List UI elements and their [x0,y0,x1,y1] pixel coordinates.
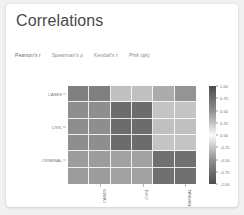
colorbar-gradient [209,86,216,184]
heatmap-cell [153,119,174,135]
heatmap-cell [175,102,196,118]
colorbar-tick [216,184,218,185]
colorbar-tick [216,147,218,148]
heatmap-cell [111,151,132,167]
heatmap-cell [68,102,89,118]
heatmap-cell [153,102,174,118]
heatmap-cell [175,135,196,151]
heatmap-cell [175,119,196,135]
tab-spearman-s[interactable]: Spearman's ρ [52,52,83,59]
heatmap-cell [153,151,174,167]
heatmap-cell [111,86,132,102]
colorbar-tick-label: -0.75 [220,169,230,174]
heatmap-cell [68,168,89,184]
colorbar-tick [216,171,218,172]
heatmap-cell [153,168,174,184]
colorbar-tick-label: 0.75 [220,96,228,101]
y-axis-tick [63,126,66,127]
heatmap-cell [68,86,89,102]
correlations-card: Correlations Pearson's rSpearman's ρKend… [6,4,238,207]
colorbar-tick-label: -0.50 [220,157,230,162]
heatmap-grid [68,86,196,184]
heatmap-cell [89,119,110,135]
heatmap-cell [89,86,110,102]
colorbar-tick [216,110,218,111]
x-axis-tick [143,184,144,187]
heatmap-cell [175,151,196,167]
y-axis-tick [63,159,66,160]
tab-kendall-s[interactable]: Kendall's τ [94,52,118,59]
x-axis-label: CIVIL [144,189,149,200]
heatmap-cell [132,86,153,102]
colorbar-tick [216,98,218,99]
colorbar-tick-label: -1.00 [220,182,230,187]
heatmap-cell [89,135,110,151]
heatmap-cell [132,119,153,135]
heatmap-cell [153,135,174,151]
colorbar-tick-label: 1.00 [220,84,228,89]
y-axis-label: CIVIL [51,124,62,129]
x-axis-label: CASES [102,189,107,203]
heatmap-cell [132,135,153,151]
y-axis-label: CASES [48,92,62,97]
heatmap-plot: CASESCIVILCRIMINAL CASESCIVILCRIMINAL 1.… [6,72,238,207]
heatmap-cell [89,102,110,118]
page-root: Correlations Pearson's rSpearman's ρKend… [0,0,244,215]
colorbar-tick [216,135,218,136]
heatmap-cell [68,119,89,135]
x-axis-tick [100,184,101,187]
heatmap-cell [68,135,89,151]
y-axis-label: CRIMINAL [42,157,62,162]
heatmap-cell [68,151,89,167]
heatmap-cell [175,168,196,184]
x-axis-label: CRIMINAL [187,189,192,207]
heatmap-cell [132,102,153,118]
heatmap-cell [132,168,153,184]
colorbar: 1.000.750.500.250.00-0.25-0.50-0.75-1.00 [209,86,238,184]
heatmap-cell [89,168,110,184]
heatmap-cell [111,168,132,184]
tab-phik-k[interactable]: Phik (φk) [129,52,150,59]
colorbar-tick [216,159,218,160]
heatmap-cell [153,86,174,102]
colorbar-tick [216,122,218,123]
colorbar-tick-label: 0.00 [220,133,228,138]
colorbar-tick-label: 0.50 [220,108,228,113]
colorbar-tick-label: -0.25 [220,145,230,150]
y-axis-tick [63,94,66,95]
x-axis-labels: CASESCIVILCRIMINAL [68,184,196,207]
heatmap-cell [111,119,132,135]
tab-pearson-s-r[interactable]: Pearson's r [15,52,41,59]
correlation-method-tabs: Pearson's rSpearman's ρKendall's τPhik (… [15,49,229,62]
page-title: Correlations [16,11,103,31]
heatmap-cell [89,151,110,167]
heatmap-cell [175,86,196,102]
colorbar-tick-label: 0.25 [220,120,228,125]
y-axis-labels: CASESCIVILCRIMINAL [26,86,66,184]
heatmap-cell [111,135,132,151]
heatmap-cell [132,151,153,167]
x-axis-tick [185,184,186,187]
colorbar-tick [216,86,218,87]
heatmap-cell [111,102,132,118]
